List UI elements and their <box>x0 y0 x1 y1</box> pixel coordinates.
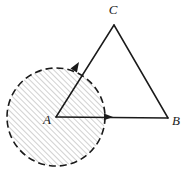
geometry-figure: A B C <box>0 0 186 175</box>
arrowhead-ab <box>104 114 113 121</box>
vertex-label-A: A <box>42 112 51 127</box>
vertex-label-B: B <box>172 113 180 128</box>
figure-canvas: A B C <box>0 0 186 175</box>
vertex-label-C: C <box>109 2 118 17</box>
segment-CB <box>114 25 168 118</box>
